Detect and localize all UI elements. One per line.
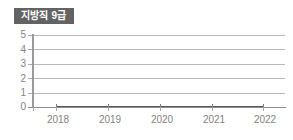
gridline-1 bbox=[33, 93, 285, 94]
x-axis-label-2021: 2021 bbox=[194, 114, 234, 126]
y-axis-line bbox=[32, 34, 34, 108]
x-axis-labels: 2018 2019 2020 2021 2022 bbox=[0, 114, 293, 128]
gridline-4 bbox=[33, 49, 285, 50]
y-axis-label-1: 1 bbox=[6, 88, 26, 98]
x-axis-label-2018: 2018 bbox=[38, 114, 78, 126]
x-axis-tick-2022 bbox=[263, 107, 264, 111]
y-axis-label-0: 0 bbox=[6, 102, 26, 112]
gridline-5 bbox=[33, 35, 285, 36]
gridline-3 bbox=[33, 64, 285, 65]
y-axis-label-4: 4 bbox=[6, 45, 26, 55]
y-axis-label-5: 5 bbox=[6, 30, 26, 40]
x-axis-tick-origin bbox=[33, 107, 34, 111]
gridline-2 bbox=[33, 78, 285, 79]
x-axis-tick-2019 bbox=[108, 107, 109, 111]
x-axis-label-2020: 2020 bbox=[142, 114, 182, 126]
plot-area bbox=[33, 35, 285, 107]
x-axis-tick-2021 bbox=[212, 107, 213, 111]
x-axis-line bbox=[28, 107, 286, 108]
x-axis-tick-2020 bbox=[160, 107, 161, 111]
chart-card: 지방직 9급 5 4 3 2 1 0 2018 20 bbox=[0, 0, 293, 140]
x-axis-label-2019: 2019 bbox=[90, 114, 130, 126]
y-axis-label-2: 2 bbox=[6, 74, 26, 84]
x-axis-tick-2018 bbox=[56, 107, 57, 111]
x-axis-label-2022: 2022 bbox=[245, 114, 285, 126]
y-axis-label-3: 3 bbox=[6, 59, 26, 69]
